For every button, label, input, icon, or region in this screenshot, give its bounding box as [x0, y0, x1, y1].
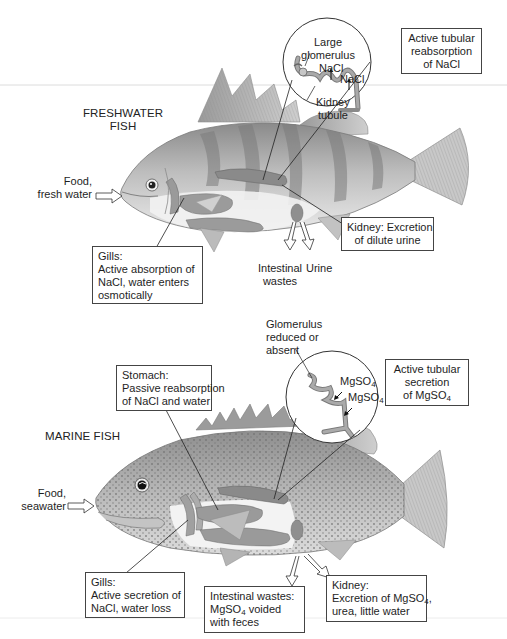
- freshwater-title-line2: FISH: [82, 120, 164, 133]
- fw-gills-line1: Gills:: [98, 250, 197, 263]
- m-intestinal-line3: with feces: [210, 616, 299, 629]
- kidney-tubule-line2: tubule: [318, 109, 350, 122]
- marine-food-label: Food, seawater: [10, 487, 66, 513]
- fw-gills-line3: NaCl, water enters: [98, 276, 197, 289]
- glomerulus-line3: absent: [266, 344, 322, 357]
- m-kidney-line2-base: Excretion of MgSO: [332, 592, 424, 604]
- large-glomerulus-line1: Large: [296, 36, 360, 49]
- glomerulus-reduced-label: Glomerulus reduced or absent: [266, 318, 322, 357]
- marine-title: MARINE FISH: [45, 430, 120, 443]
- mgso4-2-sub: 4: [379, 396, 383, 405]
- stomach-line2: Passive reabsorption: [122, 382, 206, 395]
- marine-food-arrow-icon: [68, 499, 94, 513]
- m-intestinal-line1: Intestinal wastes:: [210, 590, 299, 603]
- m-gills-line2: Active secretion of: [91, 589, 179, 602]
- freshwater-gills-box: Gills: Active absorption of NaCl, water …: [92, 246, 203, 304]
- urine-label: Urine: [306, 262, 332, 275]
- marine-gills-box: Gills: Active secretion of NaCl, water l…: [85, 572, 185, 618]
- intestinal-line2: wastes: [252, 275, 308, 288]
- freshwater-title-line1: FRESHWATER: [82, 107, 164, 120]
- m-gills-line3: NaCl, water loss: [91, 602, 179, 615]
- marine-kidney-box: Kidney: Excretion of MgSO4, urea, little…: [326, 575, 427, 622]
- mgso4-label-1: MgSO4: [340, 375, 376, 388]
- fw-gills-line4: osmotically: [98, 289, 197, 302]
- nacl-label-2: NaCl: [340, 73, 364, 86]
- m-kidney-line3: urea, little water: [332, 605, 421, 618]
- m-kidney-line2-rest: ,: [429, 592, 432, 604]
- secretion-box-line2: secretion: [391, 376, 463, 389]
- marine-food-line1: Food,: [10, 487, 66, 500]
- intestinal-line1: Intestinal: [252, 262, 308, 275]
- mgso4-label-2: MgSO4: [348, 391, 384, 404]
- marine-intestinal-arrow-icon: [286, 556, 299, 586]
- secretion-line3-base: of MgSO: [403, 389, 446, 401]
- m-intestinal-line2-rest: voided: [246, 603, 281, 615]
- fw-kidney-line1: Kidney: Excretion: [347, 221, 428, 234]
- mgso4-2-base: MgSO: [348, 391, 379, 403]
- freshwater-food-arrow-icon: [96, 189, 122, 203]
- secretion-box-line3: of MgSO4: [391, 389, 463, 402]
- reabsorption-box-line2: reabsorption: [407, 45, 476, 58]
- large-glomerulus-label: Large glomerulus: [296, 36, 360, 62]
- active-tubular-secretion-box: Active tubular secretion of MgSO4: [385, 359, 469, 406]
- m-intestinal-line2: MgSO4 voided: [210, 603, 299, 616]
- intestinal-wastes-label: Intestinal wastes: [252, 262, 308, 288]
- secretion-line3-sub: 4: [446, 394, 450, 403]
- marine-food-line2: seawater: [10, 500, 66, 513]
- freshwater-kidney-box: Kidney: Excretion of dilute urine: [341, 217, 434, 251]
- osmoregulation-diagram: FRESHWATER FISH Food, fresh water Large …: [0, 0, 507, 639]
- mgso4-1-sub: 4: [371, 380, 375, 389]
- mgso4-1-base: MgSO: [340, 375, 371, 387]
- secretion-box-line1: Active tubular: [391, 363, 463, 376]
- fw-gills-line2: Active absorption of: [98, 263, 197, 276]
- freshwater-food-line2: fresh water: [30, 188, 92, 201]
- reabsorption-box-line1: Active tubular: [407, 32, 476, 45]
- stomach-line1: Stomach:: [122, 369, 206, 382]
- stomach-line3: of NaCl and water: [122, 395, 206, 408]
- kidney-tubule-label: Kidney tubule: [318, 96, 350, 122]
- active-tubular-reabsorption-box: Active tubular reabsorption of NaCl: [401, 28, 482, 74]
- large-glomerulus-line2: glomerulus: [296, 49, 360, 62]
- marine-intestinal-wastes-box: Intestinal wastes: MgSO4 voided with fec…: [204, 586, 305, 633]
- fw-kidney-line2: of dilute urine: [347, 234, 428, 247]
- kidney-tubule-line1: Kidney: [316, 96, 350, 109]
- diagram-artwork: [0, 0, 507, 639]
- freshwater-food-line1: Food,: [30, 175, 92, 188]
- reabsorption-box-line3: of NaCl: [407, 58, 476, 71]
- m-kidney-line1: Kidney:: [332, 579, 421, 592]
- freshwater-food-label: Food, fresh water: [30, 175, 92, 201]
- urine-arrow-icon: [300, 222, 314, 250]
- freshwater-title: FRESHWATER FISH: [82, 107, 164, 133]
- m-intestinal-line2-base: MgSO: [210, 603, 241, 615]
- stomach-box: Stomach: Passive reabsorption of NaCl an…: [116, 365, 212, 411]
- glomerulus-line1: Glomerulus: [266, 318, 322, 331]
- m-gills-line1: Gills:: [91, 576, 179, 589]
- glomerulus-line2: reduced or: [266, 331, 322, 344]
- m-kidney-line2: Excretion of MgSO4,: [332, 592, 421, 605]
